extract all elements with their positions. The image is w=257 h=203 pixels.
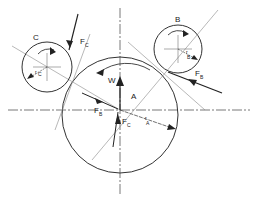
- label-radius-b-sub: B: [187, 54, 191, 60]
- tangent-b: [128, 42, 205, 110]
- roll-force-diagram: B r B F B C r C F C W A r A F B F C: [0, 0, 257, 203]
- radius-a-arrowhead: [167, 124, 176, 130]
- rotation-arrowhead-c: [50, 47, 56, 55]
- label-weight: W: [108, 76, 116, 85]
- label-roll-b: B: [175, 15, 180, 24]
- force-c-arrowhead: [66, 40, 73, 48]
- force-c-center-arrowhead: [115, 114, 121, 124]
- radius-b-arrowhead: [191, 55, 198, 60]
- label-roll-c: C: [33, 33, 39, 42]
- weight-arrowhead: [116, 76, 124, 86]
- label-force-c-sub: C: [85, 42, 89, 48]
- line-a-b: [92, 10, 218, 160]
- label-radius-c-sub: C: [38, 71, 42, 77]
- label-radius-c: r: [35, 69, 37, 75]
- label-force-b-sub: B: [200, 74, 204, 80]
- tangent-c: [55, 34, 90, 130]
- force-b-arrowhead: [188, 79, 197, 86]
- rotation-arrow-a: [100, 63, 150, 72]
- rotation-arrowhead-a: [96, 69, 104, 76]
- radius-c-arrowhead: [27, 73, 34, 79]
- label-center-a: A: [131, 92, 137, 101]
- rotation-arrowhead-b: [183, 30, 189, 37]
- label-radius-a-sub: A: [146, 120, 150, 126]
- label-force-b-center-sub: B: [99, 111, 103, 117]
- label-force-c-center-sub: C: [127, 122, 131, 128]
